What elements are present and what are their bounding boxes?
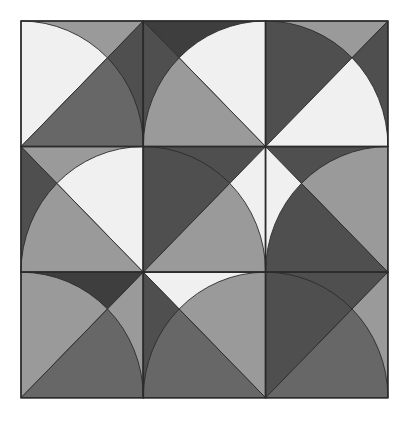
- tiles-layer: [21, 21, 388, 398]
- tile-r2-c1: [143, 272, 265, 398]
- tile-grid: [0, 0, 408, 421]
- tile-r0-c1: [143, 21, 265, 147]
- tile-r1-c2: [266, 147, 388, 273]
- tile-r0-c0: [21, 21, 143, 147]
- tile-r2-c2: [266, 272, 388, 398]
- tile-r1-c1: [143, 147, 265, 273]
- tile-r0-c2: [266, 21, 388, 147]
- pattern-artboard: [0, 0, 408, 421]
- tile-r2-c0: [21, 272, 143, 398]
- tile-r1-c0: [21, 147, 143, 273]
